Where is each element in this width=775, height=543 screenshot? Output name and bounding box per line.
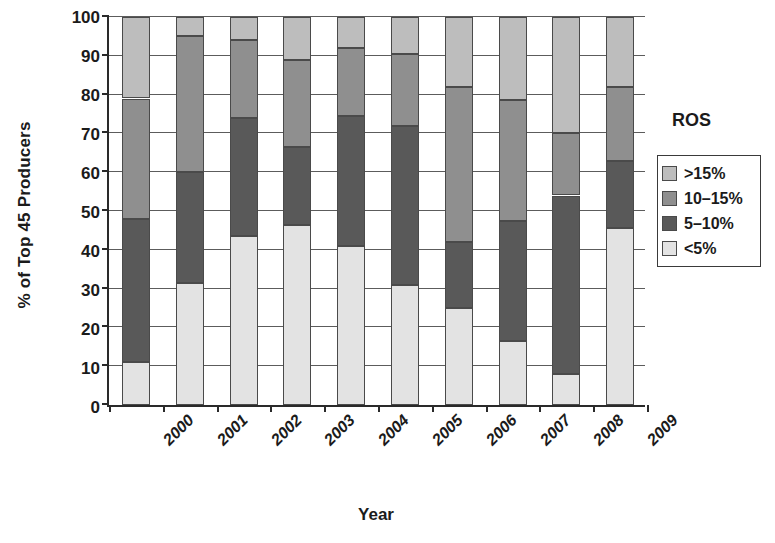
y-axis-tick-label: 80 <box>52 87 100 104</box>
y-axis-tick-label: 90 <box>52 48 100 65</box>
bar-segment <box>122 362 150 405</box>
y-axis-tick-labels: 0102030405060708090100 <box>48 0 100 543</box>
x-axis-tick-mark <box>163 405 165 412</box>
legend-swatch <box>662 241 677 256</box>
bar-segment <box>283 60 311 147</box>
x-axis-tick-label: 2008 <box>591 412 627 448</box>
bar-stack <box>283 17 311 405</box>
bar-segment <box>391 54 419 126</box>
bar-segment <box>552 196 580 374</box>
y-axis-tick-label: 40 <box>52 243 100 260</box>
y-axis-tick-mark <box>102 248 109 250</box>
bar-segment <box>445 17 473 87</box>
bar-segment <box>445 242 473 308</box>
bar-stack <box>230 17 258 405</box>
bar-segment <box>230 40 258 118</box>
legend-label: <5% <box>684 240 716 258</box>
x-axis-tick-mark <box>217 405 219 412</box>
x-axis-tick-label: 2003 <box>322 412 358 448</box>
y-axis-tick-label: 100 <box>52 9 100 26</box>
y-axis-tick-mark <box>102 131 109 133</box>
bar-stack <box>606 17 634 405</box>
legend-label: >15% <box>684 165 725 183</box>
bar-segment <box>552 17 580 133</box>
x-axis-tick-mark <box>324 405 326 412</box>
bar-segment <box>176 17 204 36</box>
bar-segment <box>552 374 580 405</box>
legend-item: 10–15% <box>662 186 756 211</box>
x-axis-title: Year <box>107 505 645 525</box>
legend-title: ROS <box>672 110 711 131</box>
bar-segment <box>283 17 311 60</box>
x-axis-tick-mark <box>647 405 649 412</box>
bar-segment <box>283 147 311 225</box>
bar-stack <box>391 17 419 405</box>
legend-swatch <box>662 216 677 231</box>
bar-segment <box>606 228 634 405</box>
bar-segment <box>176 172 204 283</box>
x-axis-tick-mark <box>593 405 595 412</box>
x-axis-tick-mark <box>378 405 380 412</box>
x-axis-tick-label: 2006 <box>483 412 519 448</box>
bar-segment <box>445 87 473 242</box>
y-axis-tick-label: 60 <box>52 165 100 182</box>
bar-segment <box>606 161 634 229</box>
y-axis-tick-mark <box>102 209 109 211</box>
bar-segment <box>499 221 527 341</box>
y-axis-tick-label: 70 <box>52 126 100 143</box>
bar-series-container <box>109 17 645 405</box>
bar-segment <box>122 17 150 98</box>
bar-stack <box>122 17 150 405</box>
x-axis-tick-mark <box>270 405 272 412</box>
y-axis-title: % of Top 45 Producers <box>8 60 42 370</box>
legend-item: 5–10% <box>662 211 756 236</box>
bar-segment <box>499 17 527 100</box>
bar-segment <box>337 116 365 246</box>
bar-segment <box>552 133 580 195</box>
bar-segment <box>445 308 473 405</box>
x-axis-tick-label: 2009 <box>645 412 681 448</box>
bar-segment <box>391 17 419 54</box>
bar-segment <box>230 118 258 236</box>
x-axis-tick-label: 2002 <box>268 412 304 448</box>
bar-segment <box>337 246 365 405</box>
y-axis-tick-label: 20 <box>52 321 100 338</box>
x-axis-tick-label: 2004 <box>376 412 412 448</box>
bar-segment <box>391 126 419 285</box>
bar-segment <box>176 36 204 172</box>
bar-segment <box>499 100 527 220</box>
bar-segment <box>230 17 258 40</box>
bar-segment <box>391 285 419 405</box>
y-axis-tick-mark <box>102 15 109 17</box>
bar-segment <box>606 87 634 161</box>
y-axis-tick-label: 10 <box>52 360 100 377</box>
x-axis-tick-mark <box>432 405 434 412</box>
x-axis-tick-labels: 2000200120022003200420052006200720082009 <box>107 412 645 487</box>
bar-segment <box>230 236 258 405</box>
bar-segment <box>176 283 204 405</box>
legend-label: 10–15% <box>684 190 743 208</box>
x-axis-tick-label: 2005 <box>429 412 465 448</box>
y-axis-tick-mark <box>102 364 109 366</box>
y-axis-tick-label: 50 <box>52 204 100 221</box>
bar-stack <box>499 17 527 405</box>
bar-segment <box>606 17 634 87</box>
bar-segment <box>337 48 365 116</box>
y-axis-tick-label: 30 <box>52 282 100 299</box>
x-axis-tick-mark <box>539 405 541 412</box>
x-axis-tick-label: 2000 <box>160 412 196 448</box>
y-axis-tick-label: 0 <box>52 399 100 416</box>
bar-segment <box>337 17 365 48</box>
x-axis-tick-mark <box>109 405 111 412</box>
bar-segment <box>499 341 527 405</box>
legend-swatch <box>662 166 677 181</box>
x-axis-tick-label: 2007 <box>537 412 573 448</box>
y-axis-tick-mark <box>102 170 109 172</box>
y-axis-tick-mark <box>102 287 109 289</box>
legend-label: 5–10% <box>684 215 734 233</box>
y-axis-title-text: % of Top 45 Producers <box>15 121 35 308</box>
bar-stack <box>445 17 473 405</box>
bar-stack <box>176 17 204 405</box>
bar-segment <box>283 225 311 405</box>
y-axis-tick-mark <box>102 54 109 56</box>
